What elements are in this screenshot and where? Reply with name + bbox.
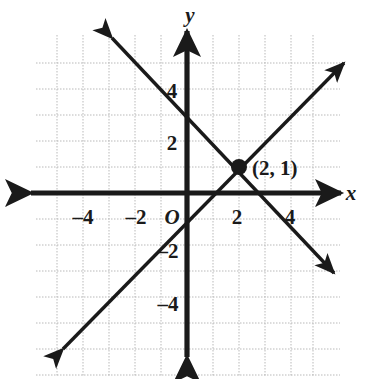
series-descending-line — [112, 38, 334, 273]
y-tick-label-neg4: –4 — [157, 292, 180, 316]
x-tick-label-neg4: –4 — [72, 205, 95, 229]
y-axis-label: y — [182, 3, 195, 27]
x-tick-label-4: 4 — [285, 205, 296, 229]
origin-label: O — [164, 205, 179, 229]
x-tick-label-2: 2 — [232, 205, 243, 229]
x-tick-label-neg2: –2 — [125, 205, 147, 229]
coordinate-plane-figure: x y O –4 –2 2 4 4 2 –2 –4 (2, 1) — [0, 0, 371, 379]
y-tick-label-4: 4 — [167, 79, 178, 103]
y-tick-label-neg2: –2 — [157, 239, 179, 263]
intersection-point-marker — [231, 159, 247, 175]
series-ascending-line — [63, 63, 344, 349]
x-axis-label: x — [345, 181, 357, 205]
intersection-point-label: (2, 1) — [252, 156, 298, 180]
y-tick-label-2: 2 — [167, 131, 178, 155]
coordinate-graph: x y O –4 –2 2 4 4 2 –2 –4 (2, 1) — [0, 0, 371, 379]
